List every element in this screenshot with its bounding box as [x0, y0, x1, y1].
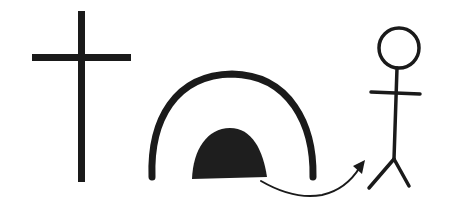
stick-figure-icon: [369, 28, 420, 188]
figure-head: [379, 28, 419, 68]
figure-right-leg: [394, 159, 409, 186]
figure-arms: [371, 92, 420, 94]
cross-icon: [32, 11, 131, 182]
figure-left-leg: [369, 159, 394, 188]
stone-icon: [192, 128, 267, 179]
figure-body: [394, 68, 397, 159]
